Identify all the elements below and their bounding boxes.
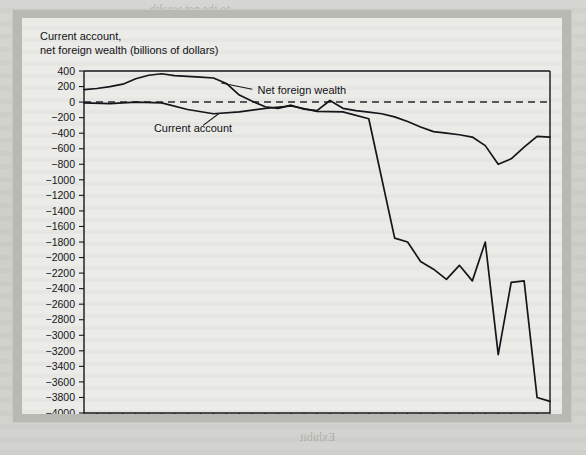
- y-tick-label: −3800: [46, 391, 76, 403]
- y-tick-label: 200: [57, 80, 75, 92]
- y-tick-label: −3000: [46, 329, 76, 341]
- y-tick-label: −1400: [46, 205, 76, 217]
- y-tick-label: −1600: [46, 220, 76, 232]
- chart-title-line1: Current account,: [40, 30, 121, 42]
- y-tick-label: −3200: [46, 345, 76, 357]
- figure-card: Current account, net foreign wealth (bil…: [22, 18, 562, 414]
- net-foreign-wealth-leader-line: [221, 83, 252, 89]
- y-tick-label: −200: [51, 111, 75, 123]
- y-tick-label: 0: [69, 96, 75, 108]
- ghost-text: Exhibit: [300, 430, 335, 445]
- line-chart: Current account, net foreign wealth (bil…: [22, 18, 562, 414]
- y-tick-label: 400: [57, 65, 75, 77]
- current-account-label: Current account: [154, 122, 232, 134]
- screenshot-page: to the net wealth current account owing …: [0, 0, 586, 455]
- y-tick-label: −1800: [46, 236, 76, 248]
- y-tick-label: −2800: [46, 313, 76, 325]
- y-tick-label: −400: [51, 127, 75, 139]
- y-tick-label: −3400: [46, 360, 76, 372]
- y-tick-label: −2400: [46, 282, 76, 294]
- y-tick-label: −1000: [46, 174, 76, 186]
- y-tick-label: −1200: [46, 189, 76, 201]
- y-tick-label: −4000: [46, 407, 76, 414]
- chart-plot-area: 4002000−200−400−600−800−1000−1200−1400−1…: [46, 65, 562, 414]
- chart-title-line2: net foreign wealth (billions of dollars): [40, 44, 219, 56]
- net-foreign-wealth-label: Net foreign wealth: [257, 84, 346, 96]
- figure-frame: Current account, net foreign wealth (bil…: [12, 9, 572, 423]
- y-tick-label: −3600: [46, 376, 76, 388]
- y-tick-label: −800: [51, 158, 75, 170]
- y-tick-label: −2200: [46, 267, 76, 279]
- y-tick-label: −2600: [46, 298, 76, 310]
- y-tick-label: −2000: [46, 251, 76, 263]
- series-current-account: [84, 102, 550, 401]
- y-tick-label: −600: [51, 142, 75, 154]
